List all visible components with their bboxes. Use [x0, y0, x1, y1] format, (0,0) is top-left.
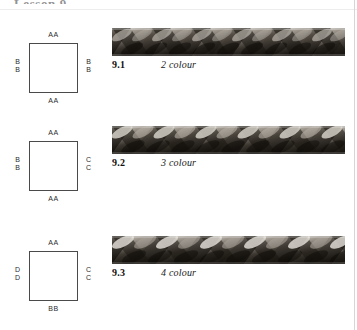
- layout-label-bottom: AA: [29, 195, 78, 203]
- layout-label-right: C C: [82, 266, 96, 282]
- layout-square-outline: [29, 251, 78, 301]
- layout-label-right-1: C: [82, 156, 96, 164]
- layout-label-left: B B: [11, 58, 25, 74]
- layout-label-top: AA: [29, 239, 78, 247]
- layout-label-right-2: C: [82, 274, 96, 282]
- layout-label-right-1: C: [82, 266, 96, 274]
- braid-illustration: [112, 236, 345, 264]
- braid-photo-9-3: [112, 236, 345, 264]
- layout-label-left: D D: [11, 266, 25, 282]
- caption-number: 9.1: [112, 59, 125, 70]
- caption-number: 9.3: [112, 267, 125, 278]
- braid-photo-9-2: [112, 126, 345, 154]
- layout-label-left: B B: [11, 156, 25, 172]
- layout-square-outline: [29, 43, 78, 93]
- braid-layout-square-9-2: AA AA B B C C: [0, 126, 100, 218]
- layout-label-bottom: AA: [29, 97, 78, 105]
- layout-label-left-1: D: [11, 266, 25, 274]
- braid-photo-9-2-wrap: [112, 126, 345, 156]
- layout-label-right-1: B: [82, 58, 96, 66]
- page-header-clipped: Lesson 9: [14, 0, 67, 4]
- caption-number: 9.2: [112, 157, 125, 168]
- braid-layout-square-9-1: AA AA B B B B: [0, 28, 100, 120]
- layout-label-right: B B: [82, 58, 96, 74]
- braid-illustration: [112, 28, 345, 56]
- caption-text: 4 colour: [161, 267, 196, 278]
- layout-label-left-1: B: [11, 156, 25, 164]
- figure-caption-9-2: 9.2 3 colour: [112, 157, 345, 171]
- figure-caption-9-3: 9.3 4 colour: [112, 267, 345, 281]
- layout-label-left-1: B: [11, 58, 25, 66]
- layout-label-right-2: C: [82, 164, 96, 172]
- braid-photo-9-1-wrap: [112, 28, 345, 58]
- braid-photo-9-1: [112, 28, 345, 56]
- caption-text: 2 colour: [161, 59, 196, 70]
- braid-photo-9-3-wrap: [112, 236, 345, 266]
- document-page: Lesson 9 AA AA B B B B: [0, 0, 357, 330]
- layout-label-top: AA: [29, 129, 78, 137]
- top-rule: [0, 9, 357, 10]
- layout-label-right: C C: [82, 156, 96, 172]
- layout-label-bottom: BB: [29, 305, 78, 313]
- caption-text: 3 colour: [161, 157, 196, 168]
- layout-label-left-2: B: [11, 164, 25, 172]
- layout-label-left-2: B: [11, 66, 25, 74]
- layout-label-top: AA: [29, 31, 78, 39]
- braid-layout-square-9-3: AA BB D D C C: [0, 236, 100, 328]
- layout-label-left-2: D: [11, 274, 25, 282]
- layout-square-outline: [29, 141, 78, 191]
- page-right-rule: [354, 0, 355, 330]
- braid-illustration: [112, 126, 345, 154]
- figure-caption-9-1: 9.1 2 colour: [112, 59, 345, 73]
- layout-label-right-2: B: [82, 66, 96, 74]
